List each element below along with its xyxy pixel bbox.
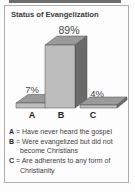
figure-title: Status of Evangelization <box>11 10 99 19</box>
cropped-page-rule <box>9 0 121 3</box>
value-label-c: 4% <box>90 89 104 99</box>
legend-text: = Were evangelized but did not <box>14 138 113 145</box>
legend-text: = Have never heard the gospel <box>14 128 112 135</box>
legend-line-a: A = Have never heard the gospel <box>9 127 127 137</box>
legend-line-b: B = Were evangelized but did not <box>9 137 127 147</box>
legend-line-c: C = Are adherents to any form of <box>9 156 127 166</box>
legend-text: become Christians <box>20 147 78 154</box>
legend-line-c-wrap: Christianity <box>20 166 127 176</box>
category-label-c: C <box>90 111 97 120</box>
legend-line-b-wrap: become Christians <box>20 146 127 156</box>
category-label-a: A <box>29 111 36 120</box>
figure-canvas: Status of Evangelization 89% 7% 4% A B C… <box>0 0 135 192</box>
legend: A = Have never heard the gospel B = Were… <box>9 127 127 176</box>
legend-text: Christianity <box>20 167 55 174</box>
category-label-b: B <box>58 111 65 120</box>
value-label-b: 89% <box>58 25 79 36</box>
value-label-a: 7% <box>25 85 39 95</box>
legend-text: = Are adherents to any form of <box>14 157 110 164</box>
